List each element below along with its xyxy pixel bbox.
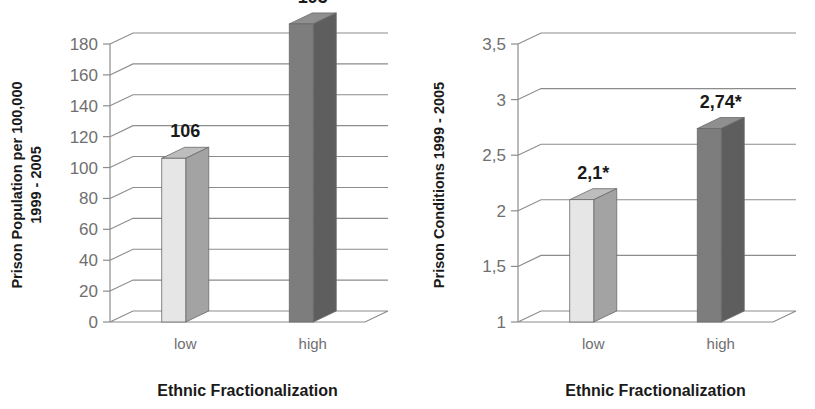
gridline bbox=[518, 255, 796, 266]
bar-side-face bbox=[186, 147, 209, 322]
chart-svg-prison-conditions: 11,522,533,52,1*low2,74*highPrison Condi… bbox=[408, 0, 815, 409]
y-axis-tick-label: 2,5 bbox=[482, 146, 506, 165]
plot-area: 020406080100120140160180106low193highPri… bbox=[9, 0, 388, 352]
bar-value-label: 2,1* bbox=[577, 163, 609, 183]
y-axis-tick-label: 60 bbox=[79, 220, 98, 239]
bar-side-face bbox=[313, 13, 336, 322]
x-axis-category-label: low bbox=[582, 335, 605, 352]
y-axis-tick-label: 120 bbox=[70, 128, 98, 147]
gridline bbox=[110, 126, 388, 137]
figure-root: 020406080100120140160180106low193highPri… bbox=[0, 0, 815, 409]
chart-floor bbox=[518, 311, 796, 322]
chart-panel-prison-conditions: 11,522,533,52,1*low2,74*highPrison Condi… bbox=[408, 0, 815, 409]
gridline bbox=[518, 33, 796, 44]
y-axis-tick-label: 1 bbox=[497, 313, 506, 332]
y-axis-tick-label: 20 bbox=[79, 282, 98, 301]
bar-low[interactable] bbox=[162, 147, 209, 322]
bar-front-face bbox=[289, 24, 313, 322]
y-axis-tick-label: 0 bbox=[89, 313, 98, 332]
bar-low[interactable] bbox=[570, 189, 617, 322]
x-axis-category-label: low bbox=[174, 335, 197, 352]
bar-value-label: 106 bbox=[170, 121, 200, 141]
y-axis-tick-label: 80 bbox=[79, 189, 98, 208]
y-axis-tick-label: 160 bbox=[70, 66, 98, 85]
gridline bbox=[110, 187, 388, 198]
chart-floor bbox=[110, 311, 388, 322]
gridline bbox=[110, 249, 388, 260]
bar-front-face bbox=[162, 158, 186, 322]
gridline bbox=[110, 95, 388, 106]
chart-svg-prison-population: 020406080100120140160180106low193highPri… bbox=[0, 0, 407, 409]
y-axis-title: 1999 - 2005 bbox=[28, 146, 44, 223]
y-axis-tick-label: 3,5 bbox=[482, 35, 506, 54]
gridline bbox=[110, 157, 388, 168]
bar-side-face bbox=[721, 118, 744, 322]
x-axis-title: Ethnic Fractionalization bbox=[157, 382, 337, 399]
gridline bbox=[110, 33, 388, 44]
y-axis-title: Prison Conditions 1999 - 2005 bbox=[431, 82, 447, 288]
x-axis-title: Ethnic Fractionalization bbox=[565, 382, 745, 399]
gridline bbox=[518, 200, 796, 211]
y-axis-tick-label: 3 bbox=[497, 91, 506, 110]
bar-side-face bbox=[594, 189, 617, 322]
plot-area: 11,522,533,52,1*low2,74*highPrison Condi… bbox=[431, 33, 796, 352]
y-axis-tick-label: 180 bbox=[70, 35, 98, 54]
bar-value-label: 2,74* bbox=[700, 92, 742, 112]
y-axis-title: Prison Population per 100,000 bbox=[9, 81, 25, 288]
y-axis-tick-label: 140 bbox=[70, 97, 98, 116]
bar-value-label: 193 bbox=[298, 0, 328, 7]
gridline bbox=[110, 218, 388, 229]
bar-front-face bbox=[697, 129, 721, 322]
gridline bbox=[518, 144, 796, 155]
x-axis-category-label: high bbox=[707, 335, 735, 352]
bar-front-face bbox=[570, 200, 594, 322]
y-axis-tick-label: 2 bbox=[497, 202, 506, 221]
chart-panel-prison-population: 020406080100120140160180106low193highPri… bbox=[0, 0, 407, 409]
y-axis-tick-label: 40 bbox=[79, 251, 98, 270]
y-axis-tick-label: 1,5 bbox=[482, 257, 506, 276]
y-axis-tick-label: 100 bbox=[70, 159, 98, 178]
gridline bbox=[518, 89, 796, 100]
gridline bbox=[110, 64, 388, 75]
gridline bbox=[110, 280, 388, 291]
x-axis-category-label: high bbox=[299, 335, 327, 352]
bar-high[interactable] bbox=[697, 118, 744, 322]
bar-high[interactable] bbox=[289, 13, 336, 322]
